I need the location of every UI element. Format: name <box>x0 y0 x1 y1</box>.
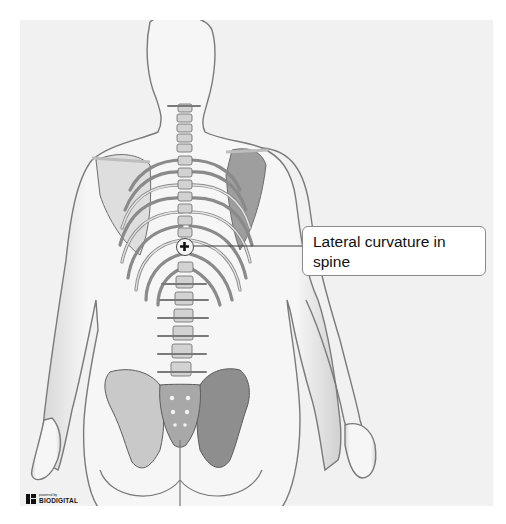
plus-circle-icon <box>177 239 192 254</box>
annotation-label[interactable]: Lateral curvature in spine <box>302 226 486 276</box>
biodigital-logo[interactable]: powered by BIODIGITAL <box>26 494 78 504</box>
biodigital-logo-icon <box>26 494 36 504</box>
annotation-label-text: Lateral curvature in spine <box>313 233 446 270</box>
brand-name: BIODIGITAL <box>39 498 78 505</box>
annotation-marker[interactable] <box>176 238 194 256</box>
